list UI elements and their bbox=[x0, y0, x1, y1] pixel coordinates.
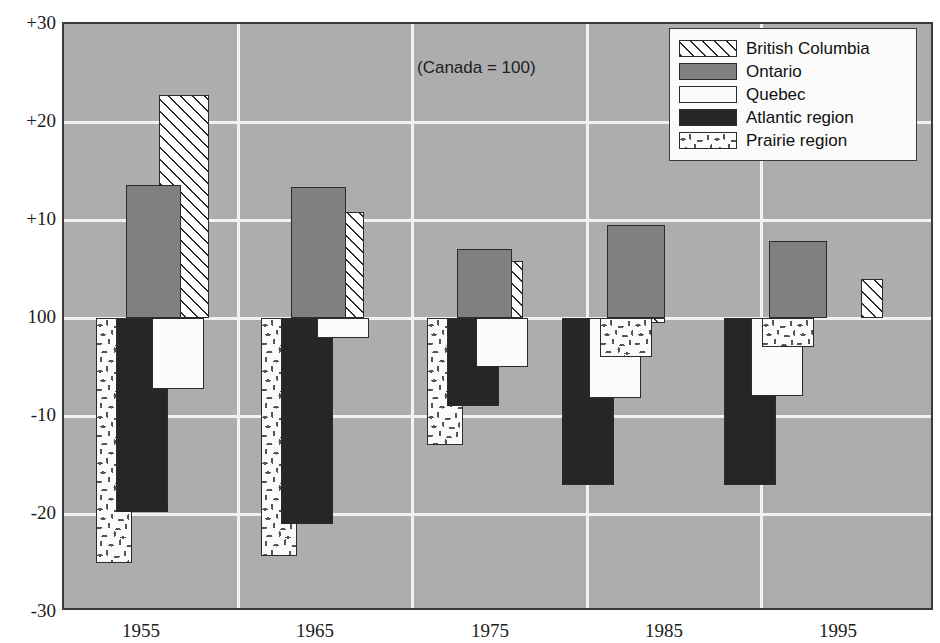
bar-1975-quebec bbox=[476, 318, 528, 367]
legend-item-bc: British Columbia bbox=[679, 37, 906, 60]
legend-item-prairie: Prairie region bbox=[679, 129, 906, 152]
gridline-horizontal bbox=[64, 415, 931, 418]
x-axis: 19551965197519851995 bbox=[62, 612, 933, 643]
legend-label: Ontario bbox=[746, 63, 802, 80]
legend-swatch-quebec-icon bbox=[679, 86, 737, 103]
legend-label: Prairie region bbox=[746, 132, 847, 149]
legend-swatch-prairie-icon bbox=[679, 132, 737, 149]
gridline-vertical bbox=[411, 24, 414, 608]
x-axis-tick-label: 1975 bbox=[430, 621, 550, 640]
x-axis-tick-label: 1995 bbox=[778, 621, 898, 640]
y-axis-tick-label: +10 bbox=[4, 209, 56, 228]
y-axis-tick-label: +20 bbox=[4, 111, 56, 130]
bar-1965-atlantic-region bbox=[281, 318, 333, 524]
chart-annotation: (Canada = 100) bbox=[417, 58, 536, 78]
gridline-vertical bbox=[586, 24, 589, 608]
chart-legend: British ColumbiaOntarioQuebecAtlantic re… bbox=[669, 28, 917, 161]
bar-1985-ontario bbox=[607, 225, 665, 318]
y-axis-tick-label: 100 bbox=[4, 307, 56, 326]
x-axis-tick-label: 1955 bbox=[81, 621, 201, 640]
bar-1995-prairie-region bbox=[762, 318, 814, 347]
bar-1995-british-columbia bbox=[861, 279, 883, 318]
legend-item-ontario: Ontario bbox=[679, 60, 906, 83]
y-axis-tick-label: -30 bbox=[4, 601, 56, 620]
bar-1985-prairie-region bbox=[600, 318, 652, 357]
legend-label: British Columbia bbox=[746, 40, 870, 57]
gridline-horizontal bbox=[64, 513, 931, 516]
y-axis: +30+20+10100-10-20-30 bbox=[0, 0, 56, 643]
bar-1995-ontario bbox=[769, 241, 827, 318]
bar-1965-quebec bbox=[317, 318, 369, 338]
legend-swatch-bc-icon bbox=[679, 40, 737, 57]
gridline-vertical bbox=[237, 24, 240, 608]
legend-label: Atlantic region bbox=[746, 109, 854, 126]
y-axis-tick-label: -10 bbox=[4, 405, 56, 424]
bar-1965-ontario bbox=[291, 187, 346, 318]
chart-figure: +30+20+10100-10-20-30 (Canada = 100) Bri… bbox=[0, 0, 940, 643]
legend-swatch-atlantic-icon bbox=[679, 109, 737, 126]
y-axis-tick-label: +30 bbox=[4, 13, 56, 32]
legend-item-atlantic: Atlantic region bbox=[679, 106, 906, 129]
y-axis-tick-label: -20 bbox=[4, 503, 56, 522]
bar-1955-ontario bbox=[126, 185, 181, 318]
bar-1975-ontario bbox=[457, 249, 512, 318]
legend-item-quebec: Quebec bbox=[679, 83, 906, 106]
x-axis-tick-label: 1965 bbox=[255, 621, 375, 640]
bar-1955-quebec bbox=[152, 318, 204, 389]
legend-swatch-ontario-icon bbox=[679, 63, 737, 80]
legend-label: Quebec bbox=[746, 86, 806, 103]
x-axis-tick-label: 1985 bbox=[604, 621, 724, 640]
